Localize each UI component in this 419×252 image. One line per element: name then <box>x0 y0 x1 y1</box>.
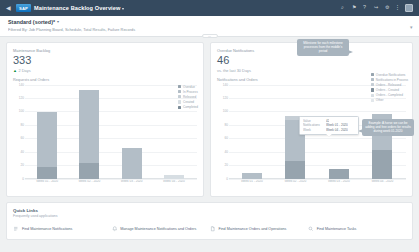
bar-segment[interactable] <box>164 175 184 179</box>
x-axis-tick: Week 01 - 2020 <box>26 180 68 189</box>
expand-filters-icon[interactable]: ▾ <box>410 24 413 30</box>
table-row[interactable] <box>79 90 99 179</box>
search-icon <box>308 226 314 232</box>
page-title-text: Maintenance Backlog Overview <box>34 5 120 11</box>
legend-item[interactable]: Released <box>178 95 198 99</box>
legend-label: In Process <box>183 90 198 94</box>
help-icon[interactable]: ? <box>361 4 368 13</box>
y-axis: 020406080100120140 <box>217 85 229 179</box>
tooltip-key: Week <box>303 128 324 132</box>
callout-top: Milestone for each milestone processes f… <box>297 39 349 56</box>
legend-swatch <box>371 73 374 76</box>
legend-item[interactable]: Overdue <box>178 85 198 89</box>
bell-icon <box>111 226 117 232</box>
filter-summary: Filtered By: Job Planning Board, Schedul… <box>8 27 411 32</box>
notifications-icon[interactable]: ⚑ <box>350 4 357 13</box>
legend-item[interactable]: Overdue Notifications <box>371 73 408 77</box>
bar-segment[interactable] <box>37 167 57 179</box>
trend-up-icon: ▲ <box>13 68 17 73</box>
legend-label: Overdue <box>183 85 195 89</box>
table-row[interactable] <box>164 175 184 179</box>
chevron-down-icon: ▾ <box>122 6 124 11</box>
legend-label: Released <box>183 95 196 99</box>
legend-swatch <box>371 99 374 102</box>
chart-caption: Requests and Orders <box>13 78 197 82</box>
settings-icon[interactable]: ⚙ <box>383 4 390 13</box>
x-axis-tick: Week 03 - 2020 <box>317 180 361 189</box>
variant-selector[interactable]: Standard (sorted)* ▾ <box>8 19 411 25</box>
legend-swatch <box>178 106 181 109</box>
avatar[interactable] <box>405 4 413 12</box>
search-icon[interactable]: ⌕ <box>339 4 346 13</box>
card-overdue-notifications: Overdue Notifications 46 vs. the last 30… <box>210 42 413 197</box>
bar-segment[interactable] <box>37 112 57 167</box>
kpi-delta-text: vs. the last 30 Days <box>217 68 251 73</box>
quick-links-title: Quick Links <box>13 208 406 213</box>
back-arrow-icon[interactable]: ◀ <box>4 5 13 11</box>
x-axis-tick: Week 04 - 2020 <box>361 180 405 189</box>
y-axis-tick: 20 <box>21 163 24 167</box>
quick-link-item[interactable]: Find Maintenance Notifications <box>13 226 111 232</box>
bar-segment[interactable] <box>285 161 305 178</box>
card-maintenance-backlog: Maintenance Backlog 333 ▲ 2 Days Request… <box>6 42 204 197</box>
bar-segment[interactable] <box>242 173 262 178</box>
table-row[interactable] <box>122 148 142 179</box>
overflow-icon[interactable]: ⋮ <box>394 4 401 13</box>
quick-links-row: Find Maintenance NotificationsManage Mai… <box>13 226 406 232</box>
legend-label: Other <box>376 98 384 102</box>
quick-link-item[interactable]: Manage Maintenance Notifications and Ord… <box>111 226 209 232</box>
legend-item[interactable]: Orders - Created <box>371 88 408 92</box>
legend-swatch <box>178 100 181 103</box>
tooltip-value: Week 04 - 2020 <box>326 128 348 132</box>
legend-label: Completed <box>183 105 198 109</box>
shell-bar: ◀ SAP Maintenance Backlog Overview ▾ ⌕ ⚑… <box>0 0 419 16</box>
legend-item[interactable]: Orders - Completed <box>371 93 408 97</box>
table-row[interactable] <box>242 173 262 178</box>
legend-item[interactable]: Created <box>178 100 198 104</box>
x-axis-tick: Week 02 - 2020 <box>68 180 110 189</box>
filter-bar-handle[interactable]: … <box>202 34 218 38</box>
bar-group <box>26 85 195 179</box>
shell-actions: ⌕ ⚑ ? ↪ ⚙ ⋮ <box>339 4 415 13</box>
legend-swatch <box>178 90 181 93</box>
bar-segment[interactable] <box>372 150 392 178</box>
y-axis-tick: 60 <box>225 136 228 140</box>
quick-link-item[interactable]: Find Maintenance Tasks <box>308 226 406 232</box>
sap-logo: SAP <box>16 4 31 12</box>
callout-bottom: Example: A horse we can be adding and fr… <box>362 119 414 136</box>
quick-link-item[interactable]: Find Maintenance Orders and Operations <box>210 226 308 232</box>
y-axis-tick: 20 <box>225 163 228 167</box>
kpi-delta: ▲ 2 Days <box>13 68 197 73</box>
chart-legend: OverdueIn ProcessReleasedCreatedComplete… <box>178 85 198 110</box>
legend-item[interactable]: Notifications in Process <box>371 78 408 82</box>
y-axis-tick: 60 <box>21 136 24 140</box>
table-row[interactable] <box>37 112 57 179</box>
legend-item[interactable]: In Process <box>178 90 198 94</box>
legend-item[interactable]: Other <box>371 98 408 102</box>
page-title[interactable]: Maintenance Backlog Overview ▾ <box>34 5 125 11</box>
legend-label: Orders - Completed <box>376 93 403 97</box>
legend-item[interactable]: Completed <box>178 105 198 109</box>
chevron-down-icon: ▾ <box>57 20 59 24</box>
legend-swatch <box>178 85 181 88</box>
app-root: ◀ SAP Maintenance Backlog Overview ▾ ⌕ ⚑… <box>0 0 419 252</box>
legend-swatch <box>371 83 374 86</box>
tooltip-pointer <box>326 134 332 137</box>
legend-item[interactable]: Orders - Released <box>371 83 408 87</box>
x-axis-tick: Week 01 - 2020 <box>230 180 274 189</box>
y-axis-tick: 40 <box>21 150 24 154</box>
y-axis-tick: 140 <box>223 83 228 87</box>
bar-segment[interactable] <box>122 148 142 179</box>
filter-bar: Standard (sorted)* ▾ Filtered By: Job Pl… <box>0 16 419 37</box>
share-icon[interactable]: ↪ <box>372 4 379 13</box>
variant-title: Standard (sorted)* <box>8 19 55 25</box>
legend-label: Created <box>183 100 194 104</box>
x-axis-tick: Week 02 - 2020 <box>274 180 318 189</box>
bar-segment[interactable] <box>79 90 99 163</box>
kpi-label: Maintenance Backlog <box>13 48 197 53</box>
bar-segment[interactable] <box>329 169 349 178</box>
table-row[interactable] <box>329 169 349 178</box>
legend-swatch <box>178 95 181 98</box>
bar-segment[interactable] <box>79 163 99 179</box>
chart-requests-and-orders[interactable]: 020406080100120140Week 01 - 2020Week 02 … <box>13 85 197 189</box>
